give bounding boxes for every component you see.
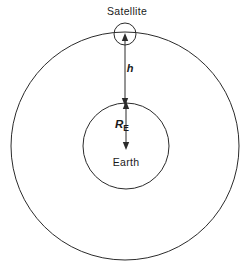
satellite-orbit-diagram: Satellite h RE Earth — [0, 0, 252, 267]
altitude-label: h — [127, 62, 134, 74]
radius-arrow-head-down — [123, 142, 129, 150]
satellite-label: Satellite — [107, 5, 147, 17]
diagram-canvas: Satellite h RE Earth — [0, 0, 252, 267]
earth-radius-label: RE — [115, 118, 129, 133]
earth-label: Earth — [113, 156, 140, 168]
altitude-arrow-head-up — [122, 33, 128, 41]
earth-radius-subscript: E — [123, 123, 129, 133]
